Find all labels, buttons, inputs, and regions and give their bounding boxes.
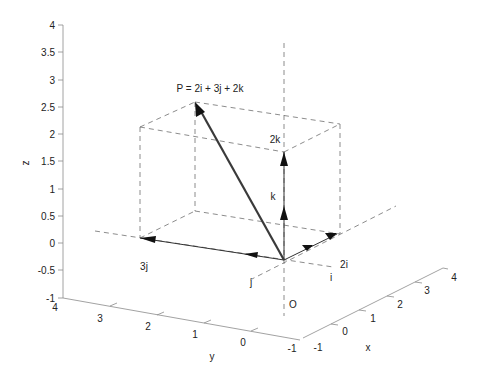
label-2k: 2k	[270, 134, 282, 145]
label-3j: 3j	[140, 261, 148, 272]
component-vectors	[140, 152, 337, 260]
label-i: i	[330, 272, 332, 283]
x-axis: -1 0 1 2 3 4 x	[303, 268, 457, 353]
arrowhead-j	[244, 252, 258, 258]
vector-labels: P = 2i + 3j + 2k 2k k 3j 2i i j O	[140, 83, 348, 310]
z-tick: 3.5	[41, 47, 55, 58]
z-tick: 2.5	[41, 102, 55, 113]
y-axis: 4 3 2 1 0 -1 y	[52, 298, 300, 362]
z-tick: 1.5	[41, 156, 55, 167]
y-axis-label: y	[210, 351, 215, 362]
z-axis: 4 3.5 3 2.5 2 1.5 1 0.5 0 -0.5 -1 z	[20, 20, 63, 304]
x-tick: -1	[314, 342, 323, 353]
y-tick: -1	[288, 343, 297, 354]
y-tick: 2	[145, 321, 151, 332]
label-k: k	[271, 191, 277, 202]
label-2i: 2i	[340, 259, 348, 270]
x-tick: 0	[342, 326, 348, 337]
vector-diagram: 4 3.5 3 2.5 2 1.5 1 0.5 0 -0.5 -1 z 4 3 …	[0, 0, 480, 380]
z-tick: 4	[49, 20, 55, 31]
y-tick: 0	[240, 337, 246, 348]
arrowhead-k	[280, 206, 288, 220]
label-origin: O	[289, 299, 297, 310]
x-tick: 3	[424, 285, 430, 296]
vector-p	[195, 102, 284, 260]
p-equation-label: P = 2i + 3j + 2k	[177, 83, 245, 94]
y-tick: 4	[52, 302, 58, 313]
dashed-guides	[95, 43, 396, 316]
z-tick: 3	[49, 75, 55, 86]
arrowhead-2k	[280, 152, 288, 166]
x-tick: 4	[451, 272, 457, 283]
y-tick: 3	[97, 313, 103, 324]
z-tick: 2	[49, 129, 55, 140]
x-tick: 2	[397, 299, 403, 310]
x-axis-label: x	[366, 342, 371, 353]
z-tick: 0.5	[41, 211, 55, 222]
z-tick: 1	[49, 184, 55, 195]
label-j: j	[249, 277, 252, 288]
x-tick: 1	[370, 313, 376, 324]
y-tick: 1	[192, 329, 198, 340]
z-tick: 0	[49, 238, 55, 249]
z-tick: -0.5	[38, 265, 56, 276]
z-axis-label: z	[20, 161, 31, 166]
